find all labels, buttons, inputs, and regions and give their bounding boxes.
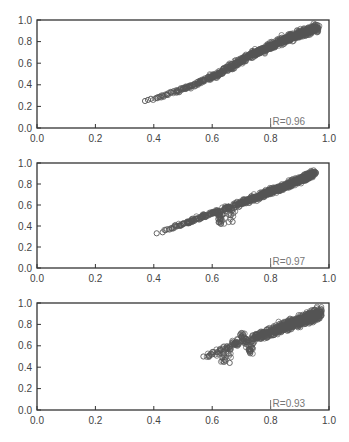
y-tick-label: 0.2 bbox=[18, 383, 32, 394]
y-tick-label: 0.4 bbox=[18, 362, 32, 373]
figure-canvas: 0.00.20.40.60.81.00.00.20.40.60.81.0R=0.… bbox=[0, 0, 349, 442]
x-tick-label: 0.8 bbox=[264, 273, 278, 284]
y-tick-label: 0.2 bbox=[18, 101, 32, 112]
x-tick-label: 1.0 bbox=[322, 415, 336, 426]
scatter-figure: 0.00.20.40.60.81.00.00.20.40.60.81.0R=0.… bbox=[0, 0, 349, 442]
y-tick-label: 1.0 bbox=[18, 158, 32, 169]
x-tick-label: 0.0 bbox=[30, 273, 44, 284]
plot-frame bbox=[37, 163, 329, 268]
x-tick-label: 0.4 bbox=[147, 415, 161, 426]
y-tick-label: 0.8 bbox=[18, 36, 32, 47]
scatter-panel-3: 0.00.20.40.60.81.00.00.20.40.60.81.0R=0.… bbox=[18, 298, 336, 427]
correlation-label: R=0.93 bbox=[273, 398, 306, 409]
x-tick-label: 0.0 bbox=[30, 133, 44, 144]
x-tick-label: 0.6 bbox=[205, 133, 219, 144]
x-tick-label: 0.2 bbox=[88, 273, 102, 284]
correlation-label: R=0.97 bbox=[273, 256, 306, 267]
y-tick-label: 0.6 bbox=[18, 58, 32, 69]
y-tick-label: 0.6 bbox=[18, 200, 32, 211]
scatter-panel-2: 0.00.20.40.60.81.00.00.20.40.60.81.0R=0.… bbox=[18, 158, 336, 285]
correlation-label: R=0.96 bbox=[273, 116, 306, 127]
y-tick-label: 0.8 bbox=[18, 319, 32, 330]
scatter-panel-1: 0.00.20.40.60.81.00.00.20.40.60.81.0R=0.… bbox=[18, 15, 336, 145]
x-tick-label: 0.6 bbox=[205, 273, 219, 284]
x-tick-label: 0.4 bbox=[147, 273, 161, 284]
y-tick-label: 1.0 bbox=[18, 298, 32, 309]
x-tick-label: 0.8 bbox=[264, 133, 278, 144]
y-tick-label: 0.0 bbox=[18, 263, 32, 274]
x-tick-label: 0.0 bbox=[30, 415, 44, 426]
x-tick-label: 0.2 bbox=[88, 415, 102, 426]
y-tick-label: 0.2 bbox=[18, 242, 32, 253]
x-tick-label: 0.2 bbox=[88, 133, 102, 144]
x-tick-label: 0.8 bbox=[264, 415, 278, 426]
y-tick-label: 0.4 bbox=[18, 79, 32, 90]
y-tick-label: 0.6 bbox=[18, 340, 32, 351]
x-tick-label: 1.0 bbox=[322, 273, 336, 284]
y-tick-label: 0.4 bbox=[18, 221, 32, 232]
x-tick-label: 0.4 bbox=[147, 133, 161, 144]
x-tick-label: 1.0 bbox=[322, 133, 336, 144]
x-tick-label: 0.6 bbox=[205, 415, 219, 426]
y-tick-label: 0.0 bbox=[18, 405, 32, 416]
y-tick-label: 0.0 bbox=[18, 123, 32, 134]
y-tick-label: 0.8 bbox=[18, 179, 32, 190]
y-tick-label: 1.0 bbox=[18, 15, 32, 26]
